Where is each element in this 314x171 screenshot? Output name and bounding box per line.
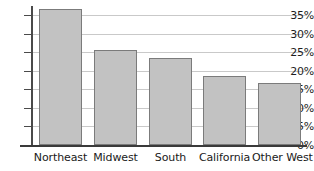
ytick-label-25: 25% bbox=[287, 47, 314, 58]
bar-midwest bbox=[94, 50, 137, 145]
xtick-label-northeast: Northeast bbox=[33, 151, 88, 164]
x-axis-line bbox=[20, 145, 307, 147]
y-axis-line bbox=[31, 6, 33, 146]
ytick-label-30: 30% bbox=[287, 29, 314, 40]
xtick-label-other-west: Other West bbox=[252, 151, 307, 164]
bar-northeast bbox=[39, 9, 82, 145]
bar-chart: 35% 30% 25% 20% 15% 10% 5% 0% Northeast … bbox=[0, 0, 314, 171]
bar-other-west bbox=[258, 83, 301, 145]
bar-california bbox=[203, 76, 246, 145]
ytick-label-35: 35% bbox=[287, 10, 314, 21]
xtick-label-midwest: Midwest bbox=[88, 151, 143, 164]
xtick-label-south: South bbox=[143, 151, 198, 164]
bar-south bbox=[149, 58, 192, 145]
ytick-label-20: 20% bbox=[287, 66, 314, 77]
xtick-label-california: California bbox=[197, 151, 252, 164]
